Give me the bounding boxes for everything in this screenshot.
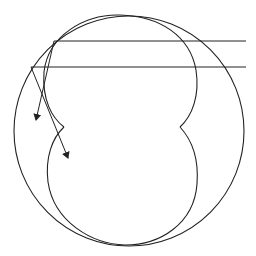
caustic-diagram xyxy=(0,0,256,256)
mirror-circle xyxy=(14,16,244,246)
reflected-ray-2-arrow-icon xyxy=(31,67,68,158)
caustic-upper-lobe xyxy=(44,15,197,127)
diagram-canvas xyxy=(0,0,256,256)
caustic-lower-lobe xyxy=(47,127,197,245)
